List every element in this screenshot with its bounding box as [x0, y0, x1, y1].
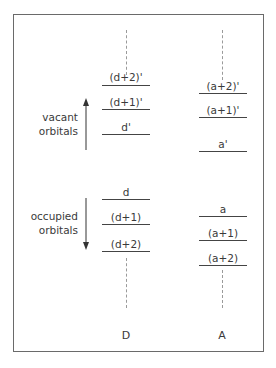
level-label: d' — [96, 121, 156, 133]
level-label: (d+2)' — [96, 71, 156, 83]
vacant-label-line2: orbitals — [18, 124, 78, 138]
level-label: a' — [193, 138, 253, 150]
vacant-label-line1: vacant — [18, 110, 78, 124]
energy-level — [199, 265, 247, 266]
level-label: d — [96, 186, 156, 198]
energy-level — [199, 93, 247, 94]
level-label: (d+2) — [96, 238, 156, 250]
occupied-label-line1: occupied — [18, 209, 78, 223]
dashed-continuation-top — [222, 30, 223, 80]
column-label-a: A — [212, 329, 232, 342]
level-label: (a+1)' — [193, 104, 253, 116]
energy-level — [102, 85, 150, 86]
energy-level — [102, 199, 150, 200]
energy-level — [199, 240, 247, 241]
occupied-orbitals-label: occupied orbitals — [18, 209, 78, 237]
up-arrow-icon — [83, 98, 89, 150]
dashed-continuation-bottom — [126, 258, 127, 308]
level-label: (d+1)' — [96, 96, 156, 108]
down-arrow-icon — [83, 198, 89, 250]
level-label: (a+2)' — [193, 80, 253, 92]
column-label-d: D — [116, 329, 136, 342]
dashed-continuation-top — [126, 30, 127, 75]
energy-level — [199, 117, 247, 118]
occupied-label-line2: orbitals — [18, 223, 78, 237]
arrows-layer — [0, 0, 276, 368]
level-label: (a+2) — [193, 252, 253, 264]
level-label: (a+1) — [193, 227, 253, 239]
energy-level — [199, 151, 247, 152]
energy-level — [199, 216, 247, 217]
energy-level — [102, 251, 150, 252]
energy-level — [102, 224, 150, 225]
dashed-continuation-bottom — [222, 270, 223, 308]
vacant-orbitals-label: vacant orbitals — [18, 110, 78, 138]
energy-level — [102, 134, 150, 135]
level-label: (d+1) — [96, 211, 156, 223]
energy-level — [102, 109, 150, 110]
level-label: a — [193, 203, 253, 215]
